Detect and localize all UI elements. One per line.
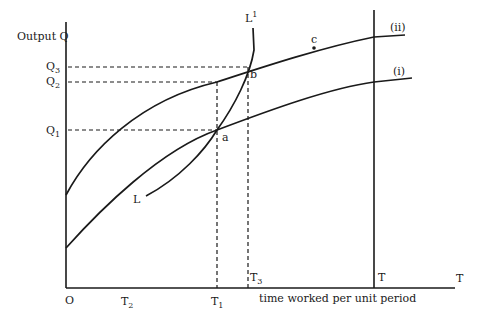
t3-label: T3	[250, 271, 262, 286]
t2-label: T2	[121, 295, 133, 310]
point-a-label: a	[222, 131, 229, 144]
production-diagram: Output Q Q3 Q2 Q1 O T2 T1 T3 T T time wo…	[0, 0, 477, 321]
curve-i	[66, 78, 412, 248]
x-axis-end-label: T	[456, 272, 464, 285]
origin-label: O	[65, 294, 74, 307]
point-b-label: b	[250, 68, 257, 81]
curve-l	[146, 28, 254, 196]
q2-label: Q2	[46, 75, 60, 90]
curve-i-label: (i)	[393, 65, 405, 78]
y-axis-label: Output Q	[17, 30, 69, 43]
q1-label: Q1	[46, 124, 60, 139]
q3-label: Q3	[46, 60, 60, 75]
curve-ii-label: (ii)	[390, 21, 406, 34]
curve-ii	[66, 35, 405, 195]
curve-l-start-label: L	[133, 193, 141, 206]
t1-label: T1	[211, 295, 223, 310]
point-c-marker	[312, 46, 316, 50]
curve-l-end-label: L1	[245, 10, 257, 25]
x-axis-label: time worked per unit period	[259, 292, 416, 305]
point-c-label: c	[311, 33, 317, 46]
t-label: T	[378, 271, 386, 284]
